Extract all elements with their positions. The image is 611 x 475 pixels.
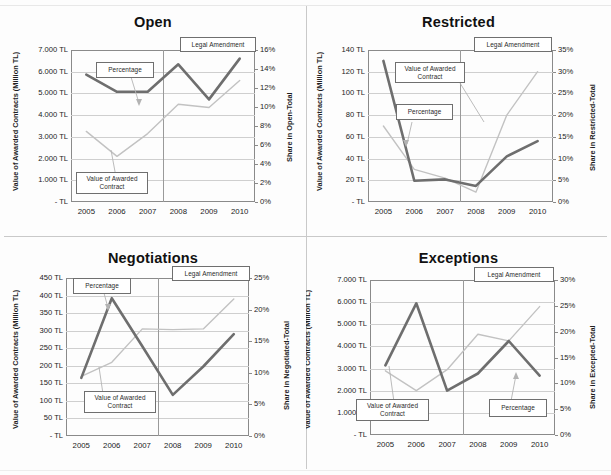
callout-percentage-open: Percentage	[96, 62, 154, 78]
leader-lines-restricted	[306, 0, 611, 236]
callout-legal-amendment-exceptions: Legal Amendment	[474, 267, 554, 282]
callout-value-negotiations: Value of Awarded Contract	[84, 391, 156, 413]
chart-panel-restricted: Restricted Value of Awarded Contracts (M…	[306, 0, 611, 236]
plot-area-exceptions: 7.000 TL6.000 TL5.000 TL4.000 TL3.000 TL…	[306, 236, 611, 475]
plot-area-restricted: 140 TL120 TL100 TL80 TL60 TL40 TL20 TL- …	[306, 0, 611, 236]
figure-page: Open Value of Awarded Contracts (Million…	[0, 0, 611, 475]
chart-panel-exceptions: Exceptions Value of Awarded Contracts (M…	[306, 236, 611, 475]
leader-lines-open	[0, 0, 306, 236]
leader-lines-negotiations	[0, 236, 306, 475]
callout-value-open: Value of Awarded Contract	[76, 172, 148, 194]
callout-legal-amendment-open: Legal Amendment	[180, 37, 256, 52]
plot-area-negotiations: 450 TL400 TL350 TL300 TL250 TL200 TL150 …	[0, 236, 306, 475]
plot-area-open: 7.000 TL6.000 TL5.000 TL4.000 TL3.000 TL…	[0, 0, 306, 236]
chart-grid: Open Value of Awarded Contracts (Million…	[0, 0, 611, 475]
callout-value-exceptions: Value of Awarded Contract	[356, 399, 429, 421]
chart-panel-open: Open Value of Awarded Contracts (Million…	[0, 0, 306, 236]
chart-panel-negotiations: Negotiations Value of Awarded Contracts …	[0, 236, 306, 475]
callout-legal-amendment-negotiations: Legal Amendment	[172, 266, 250, 281]
callout-legal-amendment-restricted: Legal Amendment	[474, 37, 552, 52]
leader-lines-exceptions	[306, 236, 611, 475]
callout-value-restricted: Value of Awarded Contract	[395, 62, 465, 83]
callout-percentage-negotiations: Percentage	[73, 278, 131, 294]
callout-percentage-restricted: Percentage	[396, 104, 453, 120]
callout-percentage-exceptions: Percentage	[489, 399, 547, 417]
